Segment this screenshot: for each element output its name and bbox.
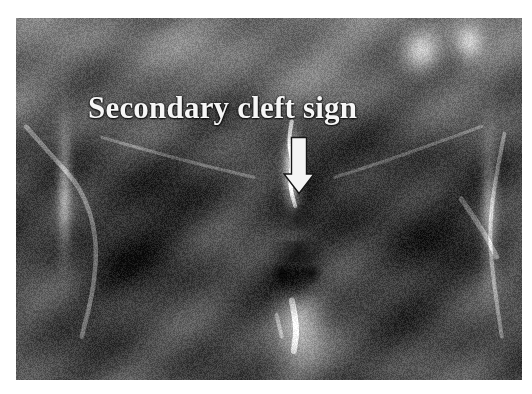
mri-image-plate [16, 18, 522, 380]
mri-scan-image [16, 18, 522, 380]
figure-root: Secondary cleft sign [0, 0, 532, 394]
